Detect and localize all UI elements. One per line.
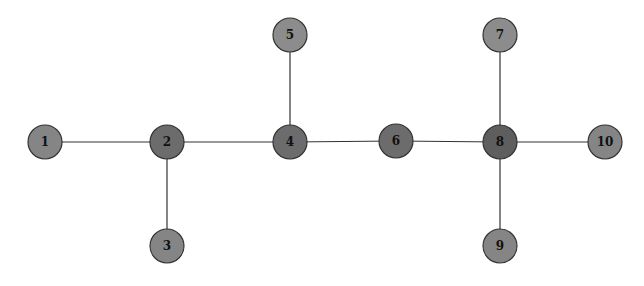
node-7: 7	[483, 18, 517, 52]
node-label: 1	[41, 135, 49, 149]
node-label: 10	[597, 135, 614, 149]
node-label: 8	[496, 135, 504, 149]
node-4: 4	[273, 125, 307, 159]
node-9: 9	[483, 229, 517, 263]
node-label: 7	[496, 28, 504, 42]
node-label: 2	[163, 135, 171, 149]
node-8: 8	[483, 125, 517, 159]
node-10: 10	[588, 125, 622, 159]
node-6: 6	[379, 124, 413, 158]
node-label: 3	[163, 239, 171, 253]
node-label: 4	[286, 135, 294, 149]
node-label: 5	[286, 28, 294, 42]
graph-canvas: 12345678910	[0, 0, 644, 286]
node-2: 2	[150, 125, 184, 159]
node-label: 9	[496, 239, 504, 253]
node-3: 3	[150, 229, 184, 263]
tree-diagram: 12345678910	[0, 0, 644, 286]
node-label: 6	[392, 134, 400, 148]
node-1: 1	[28, 125, 62, 159]
node-5: 5	[273, 18, 307, 52]
